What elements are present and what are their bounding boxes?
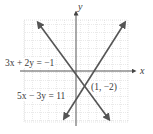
equation-1-label: 3x + 2y = −1 [4,58,55,68]
equation-2-label: 5x − 3y = 11 [16,91,66,101]
x-axis-label: x [140,66,144,76]
y-axis-label: y [78,2,82,12]
intersection-point-label: (1, −2) [90,82,118,92]
